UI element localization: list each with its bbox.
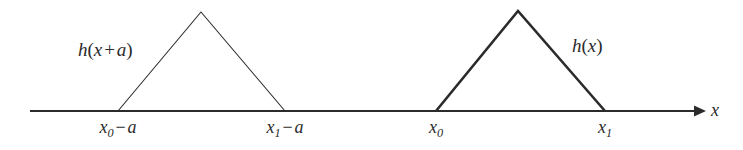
- tick-label-x0: x0: [429, 118, 443, 139]
- paren-close: ): [596, 35, 602, 56]
- figure-canvas: h(x+a) h(x) x0−a x1−a x0 x1 x: [0, 0, 743, 150]
- shifted-triangle-curve: [118, 12, 285, 111]
- tick-base: x: [598, 117, 606, 137]
- tick-label-x0-minus-a: x0−a: [100, 118, 137, 139]
- tick-operator: −: [281, 117, 295, 137]
- function-label-h-x-plus-a: h(x+a): [78, 40, 133, 59]
- tick-subscript: 0: [437, 126, 443, 140]
- tick-base: x: [267, 117, 275, 137]
- x-axis-arrowhead: [694, 106, 706, 117]
- operator-plus: +: [102, 39, 117, 60]
- tick-term: a: [294, 117, 303, 137]
- function-label-h-x: h(x): [572, 36, 603, 55]
- variable-x: x: [588, 35, 596, 56]
- paren-close: ): [126, 39, 132, 60]
- fn-name-h: h: [572, 35, 582, 56]
- tick-label-x1: x1: [598, 118, 612, 139]
- tick-operator: −: [114, 117, 128, 137]
- tick-base: x: [429, 117, 437, 137]
- fn-name-h: h: [78, 39, 88, 60]
- shift-a: a: [117, 39, 127, 60]
- x-axis-label: x: [711, 101, 719, 119]
- tick-base: x: [100, 117, 108, 137]
- base-triangle-curve: [436, 11, 605, 111]
- tick-term: a: [127, 117, 136, 137]
- tick-subscript: 1: [606, 126, 612, 140]
- tick-label-x1-minus-a: x1−a: [267, 118, 304, 139]
- variable-x: x: [94, 39, 102, 60]
